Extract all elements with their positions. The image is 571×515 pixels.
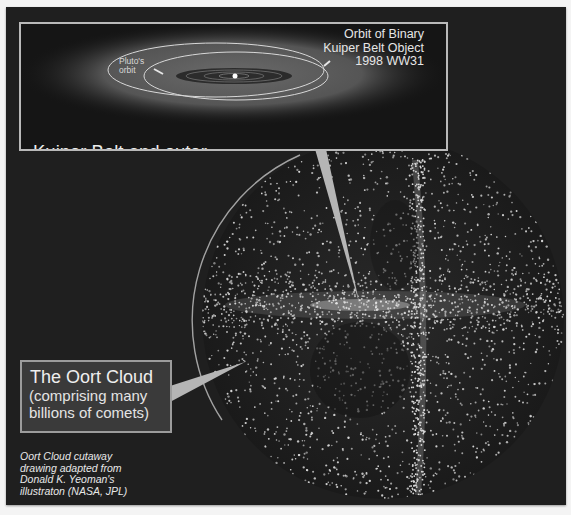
- oort-cloud-title: The Oort Cloud: [30, 368, 153, 387]
- image-credit: Oort Cloud cutaway drawing adapted from …: [20, 451, 127, 497]
- oort-cloud-sphere: [192, 137, 564, 499]
- oort-cloud-subtitle: (comprising many billions of comets): [29, 387, 149, 421]
- kuiper-inset-title: Kuiper Belt and outer solar system plane…: [33, 104, 279, 151]
- sun-icon: [233, 74, 238, 79]
- oort-cloud-label: The Oort Cloud (comprising many billions…: [20, 360, 172, 433]
- kuiper-belt-inset: Pluto's orbit Orbit of Binary Kuiper Bel…: [19, 22, 448, 151]
- binary-kbo-label: Orbit of Binary Kuiper Belt Object 1998 …: [323, 28, 424, 69]
- pluto-orbit-label: Pluto's orbit: [119, 57, 144, 75]
